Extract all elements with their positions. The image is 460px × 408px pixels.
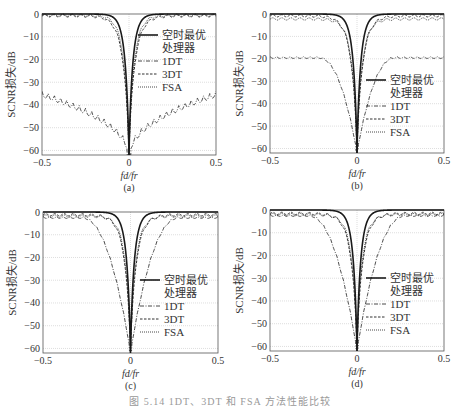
y-tick-label: −40: [24, 297, 40, 308]
y-tick-label: −50: [251, 121, 267, 132]
chart-panel-c: 0−10−20−30−40−50−60−0.500.5SCNR损失/dBfd/f…: [5, 207, 224, 393]
panel-label: (a): [123, 182, 134, 194]
y-tick-label: 0: [262, 9, 267, 20]
legend-entry: 处理器: [390, 285, 423, 297]
legend-entry: 1DT: [164, 300, 184, 312]
x-tick-label: 0: [355, 155, 360, 166]
y-tick-label: −30: [251, 76, 267, 87]
panel-label: (c): [125, 380, 136, 392]
legend-entry: FSA: [390, 126, 410, 138]
y-tick-label: −10: [251, 227, 267, 238]
y-tick-label: −10: [251, 31, 267, 42]
chart-panel-d: 0−10−20−30−40−50−60−0.500.5SCNR损失/dBfd/f…: [232, 205, 450, 391]
x-tick-label: −0.5: [261, 155, 279, 166]
y-tick-label: −10: [23, 31, 39, 42]
y-axis-label: SCNR损失/dB: [232, 247, 245, 314]
x-axis-label: fd/fr: [120, 170, 137, 181]
y-tick-label: −30: [23, 77, 39, 88]
legend-entry: 空时最优: [390, 73, 434, 86]
y-axis-label: SCNR损失/dB: [232, 50, 245, 117]
y-tick-label: −60: [251, 341, 267, 352]
y-tick-label: −50: [23, 122, 39, 133]
legend-entry: 1DT: [162, 55, 182, 67]
y-tick-label: 0: [34, 9, 39, 20]
legend: 空时最优处理器1DT3DTFSA: [140, 273, 208, 338]
x-tick-label: −0.5: [261, 353, 279, 364]
legend-entry: 1DT: [390, 100, 410, 112]
legend-entry: 3DT: [390, 311, 410, 323]
y-tick-label: 0: [262, 205, 267, 216]
x-axis-label: fd/fr: [348, 168, 365, 179]
x-axis-label: fd/fr: [122, 368, 139, 379]
legend-entry: 空时最优: [164, 273, 208, 286]
y-tick-label: −40: [251, 295, 267, 306]
x-tick-label: −0.5: [34, 355, 52, 366]
y-tick-label: −20: [23, 54, 39, 65]
legend-entry: 1DT: [390, 298, 410, 310]
legend-entry: 空时最优: [390, 271, 434, 284]
x-tick-label: 0.5: [438, 155, 451, 166]
y-tick-label: −20: [24, 252, 40, 263]
y-tick-label: −30: [24, 275, 40, 286]
legend-entry: 3DT: [162, 68, 182, 80]
legend-entry: 3DT: [390, 113, 410, 125]
y-tick-label: −60: [24, 343, 40, 354]
y-tick-label: −40: [251, 98, 267, 109]
x-axis-label: fd/fr: [348, 366, 365, 377]
legend-entry: FSA: [164, 326, 184, 338]
y-tick-label: −50: [24, 320, 40, 331]
legend-entry: 处理器: [164, 287, 197, 299]
legend: 空时最优处理器1DT3DTFSA: [366, 73, 434, 138]
figure-caption: 图 5.14 1DT、3DT 和 FSA 方法性能比较: [0, 393, 460, 408]
x-tick-label: 0.5: [210, 157, 223, 168]
legend: 空时最优处理器1DT3DTFSA: [366, 271, 434, 336]
y-axis-label: SCNR损失/dB: [5, 249, 18, 316]
legend-entry: 3DT: [164, 313, 184, 325]
y-tick-label: 0: [35, 207, 40, 218]
x-tick-label: 0.5: [212, 355, 225, 366]
x-tick-label: 0.5: [438, 353, 451, 364]
y-tick-label: −20: [251, 53, 267, 64]
y-tick-label: −60: [23, 145, 39, 156]
legend-entry: 空时最优: [162, 28, 206, 41]
x-tick-label: 0: [128, 355, 133, 366]
y-tick-label: −50: [251, 318, 267, 329]
legend-entry: 处理器: [390, 87, 423, 99]
legend-entry: 处理器: [162, 42, 195, 54]
panel-label: (b): [351, 180, 363, 192]
legend-entry: FSA: [390, 324, 410, 336]
y-axis-label: SCNR损失/dB: [4, 51, 17, 118]
y-tick-label: −60: [251, 143, 267, 154]
chart-panel-b: 0−10−20−30−40−50−60−0.500.5SCNR损失/dBfd/f…: [232, 9, 450, 193]
legend-entry: FSA: [162, 81, 182, 93]
x-tick-label: −0.5: [33, 157, 51, 168]
chart-panel-a: 0−10−20−30−40−50−60−0.500.5SCNR损失/dBfd/f…: [4, 9, 222, 195]
x-tick-label: 0: [355, 353, 360, 364]
y-tick-label: −10: [24, 229, 40, 240]
y-tick-label: −20: [251, 250, 267, 261]
x-tick-label: 0: [127, 157, 132, 168]
panel-label: (d): [351, 378, 363, 390]
y-tick-label: −40: [23, 99, 39, 110]
legend: 空时最优处理器1DT3DTFSA: [138, 28, 206, 93]
y-tick-label: −30: [251, 273, 267, 284]
